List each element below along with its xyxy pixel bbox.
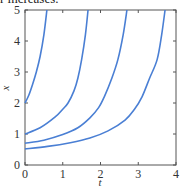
x-tick-label: 3	[135, 167, 141, 181]
chart: 01234012345 t x	[0, 0, 182, 186]
y-axis-label: x	[0, 85, 11, 91]
y-tick-label: 0	[14, 158, 20, 172]
x-tick-label: 1	[60, 167, 66, 181]
y-tick-label: 5	[14, 3, 20, 17]
y-tick-label: 4	[14, 34, 20, 48]
x-tick-label: 4	[173, 167, 179, 181]
plot-area	[25, 10, 176, 165]
y-tick-label: 1	[14, 127, 20, 141]
y-tick-label: 3	[14, 65, 20, 79]
x-tick-label: 0	[22, 167, 28, 181]
y-tick-label: 2	[14, 96, 20, 110]
